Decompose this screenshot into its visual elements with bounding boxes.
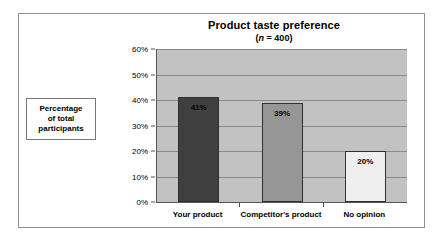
y-axis-tick-mark <box>151 49 155 50</box>
chart-frame: Product taste preference (n = 400) Perce… <box>18 13 425 228</box>
x-axis-category-label: No opinion <box>343 210 385 219</box>
chart-subtitle: (n = 400) <box>139 32 409 44</box>
y-axis-tick-mark <box>151 202 155 203</box>
plot-wrapper: 0%10%20%30%40%50%60% 41%39%20% Your prod… <box>123 49 413 224</box>
bar-value-label: 41% <box>179 103 218 112</box>
y-axis-tick-label: 0% <box>136 198 148 207</box>
x-axis-category-label: Your product <box>173 210 223 219</box>
y-axis-label-line-3: participants <box>29 124 93 134</box>
y-axis-tick-mark <box>151 74 155 75</box>
y-axis-tick-mark <box>151 151 155 152</box>
chart-title: Product taste preference <box>139 19 409 32</box>
y-axis-label-line-1: Percentage <box>29 104 93 114</box>
y-axis-label-box: Percentage of total participants <box>26 98 96 140</box>
chart-subtitle-suffix: = 400) <box>264 33 292 43</box>
y-axis-tick-label: 20% <box>132 147 148 156</box>
y-axis-label-line-2: of total <box>29 114 93 124</box>
bar-value-label: 39% <box>263 109 302 118</box>
x-axis-tick-mark <box>323 203 324 207</box>
x-axis-category-label: Competitor's product <box>240 210 321 219</box>
y-axis-tick-label: 60% <box>132 45 148 54</box>
y-axis-tick-labels: 0%10%20%30%40%50%60% <box>123 49 151 202</box>
x-axis: Your productCompetitor's productNo opini… <box>156 203 406 225</box>
bar: 39% <box>262 103 303 202</box>
gridline <box>157 49 407 50</box>
bar: 20% <box>345 151 386 202</box>
y-axis-tick-label: 30% <box>132 121 148 130</box>
gridline <box>157 75 407 76</box>
bar: 41% <box>178 97 219 202</box>
bar-value-label: 20% <box>346 157 385 166</box>
y-axis-tick-mark <box>151 100 155 101</box>
y-axis-tick-label: 40% <box>132 96 148 105</box>
y-axis-tick-label: 50% <box>132 70 148 79</box>
plot-area: 41%39%20% <box>156 49 407 203</box>
y-axis-tick-mark <box>151 125 155 126</box>
y-axis-tick-mark <box>151 176 155 177</box>
x-axis-tick-mark <box>239 203 240 207</box>
chart-title-block: Product taste preference (n = 400) <box>139 19 409 44</box>
y-axis-tick-label: 10% <box>132 172 148 181</box>
